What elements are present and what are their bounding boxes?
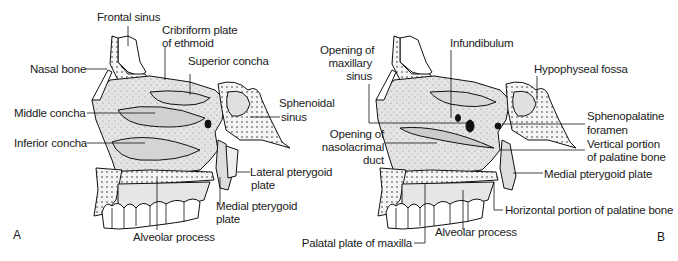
label-sphenoidal-sinus-line2: sinus	[281, 111, 307, 124]
label-opening-maxillary-line2: maxillary	[320, 57, 372, 70]
label-opening-nasolacrimal-line3: duct	[310, 154, 384, 167]
label-frontal-sinus: Frontal sinus	[97, 11, 160, 24]
nasal-cavity-figure: Frontal sinus Cribriform plate of ethmoi…	[0, 0, 678, 261]
label-medial-pterygoid-b: Medial pterygoid plate	[544, 168, 652, 181]
label-palatal-plate: Palatal plate of maxilla	[278, 237, 412, 250]
label-infundibulum: Infundibulum	[450, 37, 513, 50]
label-superior-concha: Superior concha	[188, 55, 269, 68]
label-middle-concha: Middle concha	[14, 107, 86, 120]
label-cribriform-plate-line2: of ethmoid	[162, 37, 214, 50]
label-opening-maxillary-line3: sinus	[320, 70, 372, 83]
label-opening-nasolacrimal-line1: Opening of	[310, 128, 384, 141]
label-lateral-pterygoid-line2: plate	[251, 179, 275, 192]
label-opening-nasolacrimal-line2: nasolacrimal	[310, 141, 384, 154]
label-alveolar-process-b: Alveolar process	[435, 226, 517, 239]
label-lateral-pterygoid-line1: Lateral pterygoid	[250, 166, 332, 179]
label-sphenopalatine-line1: Sphenopalatine	[587, 110, 664, 123]
label-vertical-palatine-line2: of palatine bone	[587, 151, 666, 164]
label-opening-maxillary-line1: Opening of	[320, 44, 372, 57]
panel-letter-b: B	[657, 230, 665, 244]
label-cribriform-plate-line1: Cribriform plate	[162, 24, 237, 37]
panel-letter-a: A	[13, 228, 21, 242]
label-medial-pterygoid-line1: Medial pterygoid	[216, 200, 297, 213]
label-alveolar-process-a: Alveolar process	[133, 231, 215, 244]
label-nasal-bone: Nasal bone	[30, 63, 86, 76]
label-hypophyseal-fossa: Hypophyseal fossa	[534, 63, 628, 76]
label-vertical-palatine-line1: Vertical portion	[587, 138, 660, 151]
label-sphenoidal-sinus-line1: Sphenoidal	[279, 97, 335, 110]
label-medial-pterygoid-line2: plate	[216, 213, 240, 226]
label-horizontal-palatine: Horizontal portion of palatine bone	[505, 204, 673, 217]
label-sphenopalatine-line2: foramen	[587, 124, 628, 137]
label-inferior-concha: Inferior concha	[14, 137, 87, 150]
